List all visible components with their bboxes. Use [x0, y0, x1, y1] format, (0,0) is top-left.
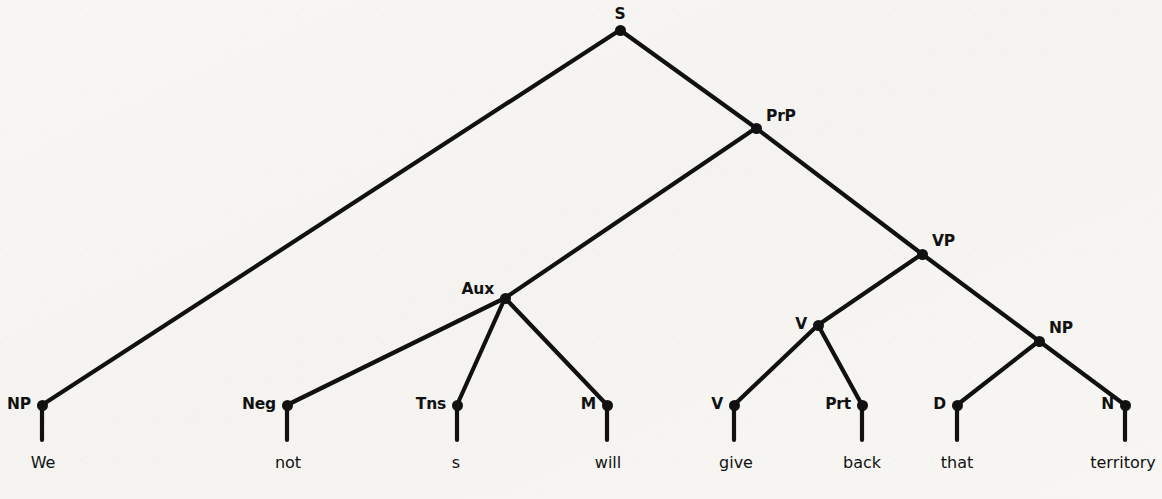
category-label-prt: Prt: [825, 397, 851, 413]
tree-node-dot-neg: [282, 400, 293, 411]
terminal-word-we: We: [31, 455, 56, 471]
category-label-s: S: [615, 7, 626, 23]
tree-node-dot-vbar: [813, 320, 824, 331]
category-label-vbar: V: [795, 317, 807, 333]
tree-branch-aux-m: [505, 298, 607, 405]
terminal-word-that: that: [941, 455, 974, 471]
tree-node-dot-s: [615, 25, 626, 36]
tree-branch-s-np1: [42, 30, 620, 405]
tree-node-dot-vp: [917, 249, 928, 260]
tree-node-dot-prt: [857, 400, 868, 411]
terminal-word-territory: territory: [1090, 455, 1156, 471]
terminal-word-give: give: [719, 455, 753, 471]
branch-group: [42, 30, 1125, 405]
category-label-neg: Neg: [242, 397, 276, 413]
tree-node-dot-v: [729, 400, 740, 411]
category-label-aux: Aux: [462, 282, 494, 298]
category-label-v: V: [711, 397, 723, 413]
category-label-np2: NP: [1049, 321, 1073, 337]
terminal-word-not: not: [275, 455, 301, 471]
tree-branch-vp-vbar: [818, 254, 922, 325]
tree-node-dot-d: [952, 400, 963, 411]
tree-branch-prp-aux: [505, 128, 756, 298]
tree-branch-vbar-v: [734, 325, 818, 405]
terminal-word-back: back: [843, 455, 881, 471]
tree-node-dot-prp: [751, 123, 762, 134]
category-label-m: M: [581, 397, 596, 413]
category-label-vp: VP: [932, 234, 955, 250]
syntax-tree-figure: SNPPrPAuxVPNegTnsMVNPVPrtDN Wenotswillgi…: [0, 0, 1162, 499]
tree-branch-aux-tns: [457, 298, 505, 405]
terminal-word-s: s: [452, 455, 460, 471]
category-label-prp: PrP: [766, 109, 796, 125]
terminal-word-will: will: [595, 455, 621, 471]
tree-node-dot-m: [602, 400, 613, 411]
tree-branch-vp-np2: [922, 254, 1039, 341]
tree-branch-np2-d: [957, 341, 1039, 405]
category-label-np1: NP: [7, 397, 31, 413]
tree-node-dot-aux: [500, 293, 511, 304]
tree-node-dot-tns: [452, 400, 463, 411]
tree-branch-prp-vp: [756, 128, 922, 254]
tree-node-dot-n: [1120, 400, 1131, 411]
category-label-d: D: [933, 397, 946, 413]
tree-branch-s-prp: [620, 30, 756, 128]
tree-node-dot-np1: [37, 400, 48, 411]
tree-node-dot-np2: [1034, 336, 1045, 347]
tree-branch-vbar-prt: [818, 325, 862, 405]
tree-branch-aux-neg: [287, 298, 505, 405]
tree-edge-layer: [0, 0, 1162, 499]
category-label-n: N: [1101, 397, 1114, 413]
category-label-tns: Tns: [416, 397, 446, 413]
